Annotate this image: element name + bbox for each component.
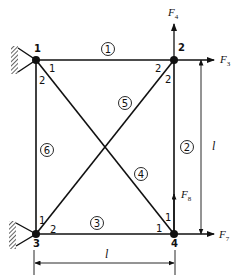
svg-text:5: 5 bbox=[122, 98, 128, 109]
dimension-horizontal-label: l bbox=[105, 247, 109, 261]
member-label-1: 1 bbox=[102, 43, 115, 56]
ground-hatch-icon bbox=[9, 221, 16, 249]
pin-support-node-3 bbox=[9, 221, 36, 249]
svg-text:3: 3 bbox=[94, 218, 100, 229]
dimension-horizontal: l bbox=[34, 247, 175, 275]
forces bbox=[174, 24, 214, 234]
node-2 bbox=[170, 56, 178, 64]
truss-diagram: F4 F3 F8 F7 1 2 3 4 1 2 2 2 1 2 1 1 1 2 … bbox=[0, 0, 245, 278]
svg-text:1: 1 bbox=[105, 44, 111, 55]
members bbox=[36, 60, 174, 234]
force-label-F8: F8 bbox=[180, 188, 192, 203]
end-label: 1 bbox=[49, 63, 55, 74]
svg-text:6: 6 bbox=[44, 145, 50, 156]
member-label-3: 3 bbox=[91, 217, 104, 230]
member-label-6: 6 bbox=[41, 144, 54, 157]
force-label-F3: F3 bbox=[219, 53, 231, 68]
end-label: 1 bbox=[39, 215, 45, 226]
end-label: 1 bbox=[165, 212, 171, 223]
member-label-2: 2 bbox=[181, 141, 194, 154]
node-label-2: 2 bbox=[178, 42, 185, 53]
end-label: 2 bbox=[50, 224, 56, 235]
dimension-vertical-label: l bbox=[212, 139, 216, 153]
node-3 bbox=[32, 230, 40, 238]
end-label: 2 bbox=[155, 63, 161, 74]
member-labels: 1 2 3 4 5 6 bbox=[41, 43, 194, 230]
node-4 bbox=[170, 230, 178, 238]
dimension-vertical: l bbox=[201, 60, 216, 234]
force-label-F7: F7 bbox=[218, 228, 230, 243]
svg-text:2: 2 bbox=[184, 142, 190, 153]
svg-text:4: 4 bbox=[138, 169, 144, 180]
ground-hatch-icon bbox=[11, 46, 18, 74]
end-label: 2 bbox=[165, 74, 171, 85]
member-label-5: 5 bbox=[119, 97, 132, 110]
end-label: 2 bbox=[39, 75, 45, 86]
force-label-F4: F4 bbox=[167, 6, 179, 21]
node-label-4: 4 bbox=[171, 238, 178, 249]
member-label-4: 4 bbox=[135, 168, 148, 181]
node-1 bbox=[32, 56, 40, 64]
node-label-3: 3 bbox=[33, 238, 40, 249]
end-label: 1 bbox=[156, 223, 162, 234]
node-label-1: 1 bbox=[34, 43, 41, 54]
